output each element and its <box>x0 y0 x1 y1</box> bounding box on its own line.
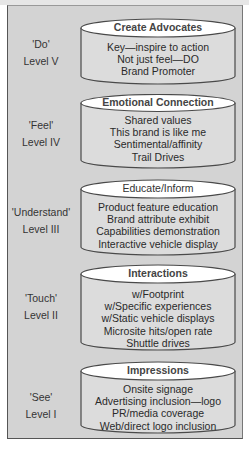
cylinder-items: Shared values This brand is like me Sent… <box>80 114 236 163</box>
cylinder-items: Product feature education Brand attribut… <box>80 201 236 250</box>
level-number: Level III <box>8 221 74 238</box>
item: Capabilities demonstration <box>80 225 236 237</box>
cylinder-title: Interactions <box>80 267 236 279</box>
item: Key—inspire to action <box>80 41 236 53</box>
level-number: Level V <box>8 53 74 70</box>
level-number: Level IV <box>8 134 74 151</box>
item: Trail Drives <box>80 151 236 163</box>
cylinder-create-advocates: Create Advocates Key—inspire to action N… <box>80 18 236 86</box>
item: Onsite signage <box>80 383 236 395</box>
item: Brand attribute exhibit <box>80 213 236 225</box>
level-verb: 'Understand' <box>8 204 74 221</box>
level-verb: 'Do' <box>8 36 74 53</box>
level-label-1: 'See' Level I <box>8 389 74 423</box>
cylinder-title: Create Advocates <box>80 21 236 33</box>
level-label-3: 'Understand' Level III <box>8 204 74 238</box>
cylinder-emotional-connection: Emotional Connection Shared values This … <box>80 94 236 170</box>
item: Product feature education <box>80 201 236 213</box>
cylinder-items: Onsite signage Advertising inclusion—log… <box>80 383 236 432</box>
level-verb: 'Feel' <box>8 117 74 134</box>
level-label-2: 'Touch' Level II <box>8 290 74 324</box>
item: This brand is like me <box>80 126 236 138</box>
item: Interactive vehicle display <box>80 238 236 250</box>
engagement-levels-panel: 'Do' Level V Create Advocates Key—inspir… <box>7 5 243 439</box>
level-number: Level II <box>8 307 74 324</box>
item: Shuttle drives <box>80 337 236 349</box>
level-label-4: 'Feel' Level IV <box>8 117 74 151</box>
item: Advertising inclusion—logo <box>80 395 236 407</box>
item: Sentimental/affinity <box>80 138 236 150</box>
level-verb: 'See' <box>8 389 74 406</box>
cylinder-items: Key—inspire to action Not just feel—DO B… <box>80 41 236 78</box>
item: Brand Promoter <box>80 65 236 77</box>
cylinder-interactions: Interactions w/Footprint w/Specific expe… <box>80 264 236 352</box>
cylinder-title: Emotional Connection <box>80 96 236 108</box>
level-verb: 'Touch' <box>8 290 74 307</box>
item: Microsite hits/open rate <box>80 325 236 337</box>
cylinder-educate-inform: Educate/Inform Product feature education… <box>80 179 236 257</box>
level-label-5: 'Do' Level V <box>8 36 74 70</box>
cylinder-title: Impressions <box>80 364 236 376</box>
item: w/Static vehicle displays <box>80 312 236 324</box>
level-number: Level I <box>8 406 74 423</box>
item: Web/direct logo inclusion <box>80 420 236 432</box>
item: Not just feel—DO <box>80 53 236 65</box>
item: PR/media coverage <box>80 407 236 419</box>
cylinder-items: w/Footprint w/Specific experiences w/Sta… <box>80 288 236 349</box>
item: w/Specific experiences <box>80 300 236 312</box>
cylinder-title: Educate/Inform <box>80 182 236 194</box>
item: w/Footprint <box>80 288 236 300</box>
cylinder-impressions: Impressions Onsite signage Advertising i… <box>80 361 236 435</box>
item: Shared values <box>80 114 236 126</box>
